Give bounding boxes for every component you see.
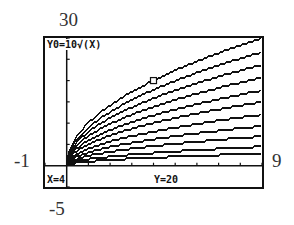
xmax-label: 9: [272, 151, 282, 170]
xmin-label: -1: [14, 151, 30, 170]
function-curve: [67, 52, 261, 166]
y-coordinate-readout: Y=20: [154, 174, 178, 185]
function-curve: [67, 154, 261, 166]
ymax-label: 30: [59, 10, 78, 29]
trace-cursor: [151, 78, 157, 84]
function-label: Y0=10√(X): [47, 39, 101, 50]
graph-plot: [45, 38, 262, 187]
calculator-screen: Y0=10√(X) X=4 Y=20: [43, 36, 264, 189]
ymin-label: -5: [49, 199, 65, 218]
function-curve: [67, 146, 261, 166]
x-coordinate-readout: X=4: [47, 174, 65, 185]
